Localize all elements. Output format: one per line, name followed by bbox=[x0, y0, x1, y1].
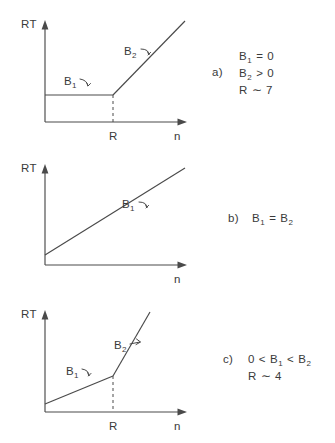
three-panel-rt-vs-n-figure: RT n R B1 B2 a) B1 = 0 B2 > 0 R ∼ 7 bbox=[0, 0, 335, 443]
panel-c-b2-pointer-icon bbox=[130, 339, 141, 345]
panel-c-x-axis-label: n bbox=[174, 420, 181, 432]
panel-a-condition-3: R ∼ 7 bbox=[239, 84, 273, 96]
panel-a: RT n R B1 B2 a) B1 = 0 B2 > 0 R ∼ 7 bbox=[21, 18, 274, 142]
panel-a-b2-pointer-icon bbox=[141, 49, 151, 55]
panel-c-y-axis-arrowhead bbox=[42, 310, 49, 320]
panel-c-b1-pointer-icon bbox=[82, 369, 91, 376]
panel-b-y-axis-arrowhead bbox=[42, 164, 49, 174]
panel-c-y-axis-label: RT bbox=[21, 308, 37, 320]
panel-a-b1-pointer-icon bbox=[80, 79, 91, 86]
panel-b-b1-line bbox=[45, 168, 185, 255]
panel-b-x-axis-label: n bbox=[174, 273, 181, 285]
panel-a-y-axis-arrowhead bbox=[42, 20, 49, 30]
panel-a-condition-1: B1 = 0 bbox=[239, 50, 274, 65]
panel-c-condition-1: 0 < B1 < B2 bbox=[248, 353, 312, 368]
panel-b-case-letter: b) bbox=[228, 212, 239, 224]
figure-container: RT n R B1 B2 a) B1 = 0 B2 > 0 R ∼ 7 bbox=[0, 0, 335, 443]
panel-a-x-axis-label: n bbox=[174, 130, 181, 142]
panel-a-condition-2: B2 > 0 bbox=[239, 67, 274, 82]
panel-c-b2-label: B2 bbox=[114, 339, 127, 354]
panel-a-x-axis-arrowhead bbox=[178, 119, 188, 126]
panel-a-tick-label-r: R bbox=[109, 130, 118, 142]
panel-b-y-axis-label: RT bbox=[21, 162, 37, 174]
panel-a-b1-label: B1 bbox=[64, 75, 77, 90]
panel-c-condition-2: R ∼ 4 bbox=[248, 370, 282, 382]
panel-c: RT n R B1 B2 c) 0 < B1 < B2 R ∼ 4 bbox=[21, 308, 312, 432]
panel-b: RT n B1 b) B1 = B2 bbox=[21, 162, 294, 285]
panel-b-x-axis-arrowhead bbox=[178, 262, 188, 269]
panel-a-b2-label: B2 bbox=[124, 45, 137, 60]
panel-c-x-axis-arrowhead bbox=[178, 409, 188, 416]
panel-a-b2-segment bbox=[113, 21, 185, 95]
panel-c-tick-label-r: R bbox=[109, 420, 118, 432]
panel-b-b1-pointer-icon bbox=[139, 202, 149, 208]
panel-c-case-letter: c) bbox=[223, 353, 233, 365]
panel-a-case-letter: a) bbox=[212, 66, 223, 78]
panel-b-condition-1: B1 = B2 bbox=[252, 212, 294, 227]
panel-c-b1-segment bbox=[45, 376, 113, 404]
panel-c-b1-label: B1 bbox=[66, 365, 79, 380]
panel-a-y-axis-label: RT bbox=[21, 18, 37, 30]
